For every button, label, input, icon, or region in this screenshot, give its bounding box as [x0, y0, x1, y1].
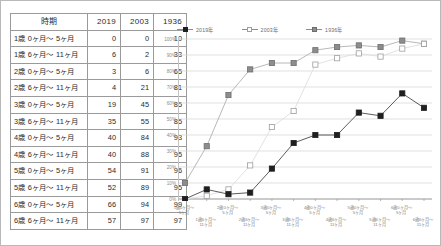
legend-item-1936[interactable]: 1936年: [306, 26, 343, 33]
cell-2019: 57: [88, 213, 121, 230]
x-axis-tick-label-line2: 5ヶ月: [391, 210, 412, 215]
cell-period: 2歳 0ヶ月～ 5ヶ月: [11, 63, 88, 80]
x-axis-tick-label: 5歳6ヶ月～11ヶ月: [369, 217, 390, 228]
data-point-2003年[interactable]: [204, 193, 209, 198]
data-table-panel: 時期 2019 2003 1936 1歳 0ヶ月～ 5ヶ月00101歳 6ヶ月～…: [10, 13, 160, 230]
data-point-2019年[interactable]: [334, 132, 339, 137]
cell-2003: 45: [121, 96, 154, 113]
cell-period: 2歳 6ヶ月～ 11ヶ月: [11, 80, 88, 97]
data-point-2019年[interactable]: [291, 140, 296, 145]
series-line-1936年: [185, 41, 424, 183]
y-axis-tick: 70%: [167, 85, 176, 90]
y-axis-tick: 80%: [167, 69, 176, 74]
legend-item-2019[interactable]: 2019年: [177, 26, 214, 33]
column-header-2003: 2003: [121, 14, 154, 31]
data-point-2003年[interactable]: [291, 108, 296, 113]
x-axis-tick-label: 4歳6ヶ月～11ヶ月: [326, 217, 347, 228]
cell-2019: 6: [88, 47, 121, 64]
legend-line-2019: [177, 29, 193, 30]
data-point-2003年[interactable]: [313, 62, 318, 67]
data-point-1936年[interactable]: [400, 38, 405, 43]
legend-item-2003[interactable]: 2003年: [242, 26, 279, 33]
cell-2019: 4: [88, 80, 121, 97]
data-point-2019年[interactable]: [182, 196, 187, 201]
cell-2003: 21: [121, 80, 154, 97]
x-axis-tick-label-line2: 5ヶ月: [217, 210, 238, 215]
x-axis-tick-label: 1歳0ヶ月～5ヶ月: [174, 205, 195, 216]
y-axis-tick: 30%: [167, 149, 176, 154]
table-row: 3歳 0ヶ月～ 5ヶ月194585: [11, 96, 187, 113]
y-axis-tick: 20%: [167, 165, 176, 170]
table-header: 時期 2019 2003 1936: [11, 14, 187, 31]
data-point-1936年[interactable]: [226, 92, 231, 97]
plot-area: [178, 37, 431, 201]
legend-label-2019: 2019年: [196, 26, 214, 33]
table-row: 5歳 0ヶ月～ 5ヶ月549196: [11, 163, 187, 180]
data-point-2019年[interactable]: [248, 190, 253, 195]
data-point-2019年[interactable]: [204, 187, 209, 192]
data-point-2003年[interactable]: [356, 51, 361, 56]
data-point-1936年[interactable]: [269, 60, 274, 65]
series-line-2003年: [185, 44, 424, 199]
table-row: 6歳 6ヶ月～ 11ヶ月579797: [11, 213, 187, 230]
data-point-2003年[interactable]: [421, 41, 426, 46]
data-point-1936年[interactable]: [334, 44, 339, 49]
cell-2019: 66: [88, 196, 121, 213]
data-point-2019年[interactable]: [421, 105, 426, 110]
data-point-1936年[interactable]: [204, 144, 209, 149]
cell-2003: 2: [121, 47, 154, 64]
data-point-2019年[interactable]: [226, 192, 231, 197]
data-point-2019年[interactable]: [313, 132, 318, 137]
cell-2019: 52: [88, 179, 121, 196]
cell-2003: 6: [121, 63, 154, 80]
cell-2003: 88: [121, 146, 154, 163]
y-axis-tick: 60%: [167, 101, 176, 106]
x-axis-tick-label-line2: 11ヶ月: [413, 222, 434, 227]
table-row: 2歳 0ヶ月～ 5ヶ月3665: [11, 63, 187, 80]
chart-legend: 2019年 2003年 1936年: [177, 23, 427, 35]
data-point-2003年[interactable]: [334, 56, 339, 61]
data-point-2003年[interactable]: [248, 163, 253, 168]
legend-marker-1936-icon: [312, 27, 317, 32]
cell-period: 5歳 0ヶ月～ 5ヶ月: [11, 163, 88, 180]
data-point-1936年[interactable]: [378, 44, 383, 49]
data-point-1936年[interactable]: [182, 180, 187, 185]
table-row: 4歳 6ヶ月～ 11ヶ月408895: [11, 146, 187, 163]
column-header-2019: 2019: [88, 14, 121, 31]
cell-period: 3歳 0ヶ月～ 5ヶ月: [11, 96, 88, 113]
data-point-1936年[interactable]: [313, 48, 318, 53]
cell-period: 1歳 0ヶ月～ 5ヶ月: [11, 30, 88, 47]
y-axis-tick: 40%: [167, 133, 176, 138]
cell-2003: 97: [121, 213, 154, 230]
x-axis-tick-label: 5歳0ヶ月～5ヶ月: [347, 205, 368, 216]
cell-2019: 35: [88, 113, 121, 130]
cell-period: 6歳 0ヶ月～ 5ヶ月: [11, 196, 88, 213]
data-point-2019年[interactable]: [269, 166, 274, 171]
data-point-2003年[interactable]: [269, 124, 274, 129]
data-point-2003年[interactable]: [378, 54, 383, 59]
data-point-1936年[interactable]: [248, 67, 253, 72]
table-row: 1歳 6ヶ月～ 11ヶ月6233: [11, 47, 187, 64]
cell-2003: 55: [121, 113, 154, 130]
data-point-2019年[interactable]: [356, 110, 361, 115]
x-axis-tick-label-line2: 11ヶ月: [326, 222, 347, 227]
cell-2019: 3: [88, 63, 121, 80]
legend-label-2003: 2003年: [261, 26, 279, 33]
x-axis-labels: 1歳0ヶ月～5ヶ月1歳6ヶ月～11ヶ月2歳0ヶ月～5ヶ月2歳6ヶ月～11ヶ月3歳…: [178, 203, 431, 243]
plot-wrapper: 0%10%20%30%40%50%60%70%80%90%100% 1歳0ヶ月～…: [163, 37, 433, 215]
chart-svg: [179, 37, 432, 201]
legend-marker-2019-icon: [183, 27, 188, 32]
data-point-1936年[interactable]: [356, 43, 361, 48]
legend-marker-2003-icon: [247, 27, 252, 32]
data-point-2003年[interactable]: [400, 46, 405, 51]
data-point-2019年[interactable]: [378, 113, 383, 118]
y-axis-tick: 10%: [167, 181, 176, 186]
cell-period: 5歳 6ヶ月～ 11ヶ月: [11, 179, 88, 196]
table-row: 3歳 6ヶ月～ 11ヶ月355585: [11, 113, 187, 130]
x-axis-tick-label-line2: 11ヶ月: [369, 222, 390, 227]
data-point-2019年[interactable]: [400, 91, 405, 96]
data-point-1936年[interactable]: [291, 60, 296, 65]
x-axis-tick-label-line2: 5ヶ月: [261, 210, 282, 215]
cell-period: 1歳 6ヶ月～ 11ヶ月: [11, 47, 88, 64]
cell-2003: 84: [121, 130, 154, 147]
